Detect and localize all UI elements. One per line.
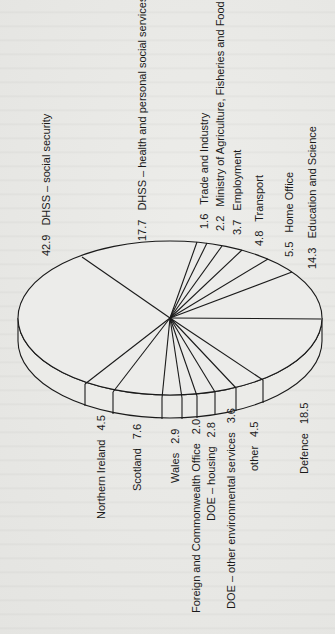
label-doe-other: DOE – other environmental services3.6 [225,408,237,609]
label-transport: 4.8Transport [253,175,265,246]
label-northern-ireland: Northern Ireland4.5 [95,415,107,519]
label-education: 14.3Education and Science [306,126,318,269]
value-health: 17.7 [136,220,148,241]
value-home-office: 5.5 [283,242,295,257]
label-health: 17.7DHSS – health and personal social se… [136,0,148,241]
value-defence: 18.5 [298,403,310,424]
label-doe-housing: DOE – housing2.8 [205,422,217,521]
value-agriculture: 2.2 [214,216,226,231]
value-education: 14.3 [306,248,318,269]
label-wales: Wales2.9 [169,429,181,483]
label-home-office: 5.5Home Office [283,172,295,257]
label-employment: 3.7Employment [231,150,243,235]
value-employment: 3.7 [231,220,243,235]
value-foreign-commonwealth: 2.0 [190,419,202,434]
label-other: other4.5 [248,422,260,471]
pie-chart [0,0,335,634]
label-social-security: 42.9DHSS – social security [40,114,52,256]
label-trade-industry: 1.6Trade and Industry [198,113,210,229]
value-trade-industry: 1.6 [198,214,210,229]
value-other: 4.5 [248,422,260,437]
value-doe-other: 3.6 [225,408,237,423]
value-social-security: 42.9 [40,235,52,256]
label-agriculture: 2.2Ministry of Agriculture, Fisheries an… [214,1,226,231]
label-defence: Defence18.5 [298,403,310,474]
value-doe-housing: 2.8 [205,422,217,437]
label-foreign-commonwealth: Foreign and Commonwealth Office2.0 [190,419,202,613]
label-scotland: Scotland7.6 [131,424,143,491]
value-wales: 2.9 [169,429,181,444]
value-scotland: 7.6 [131,424,143,439]
value-transport: 4.8 [253,231,265,246]
value-northern-ireland: 4.5 [95,415,107,430]
